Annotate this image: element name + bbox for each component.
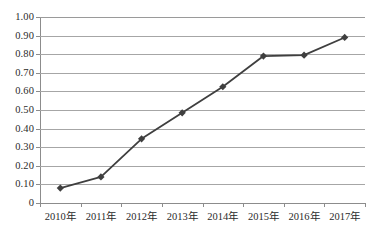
x-axis-tick-label: 2016年 — [289, 211, 320, 223]
x-axis-tick-mark — [81, 203, 82, 207]
y-axis-tick-label: 0.70 — [15, 68, 34, 78]
y-axis-tick-label: 0.10 — [15, 179, 34, 189]
y-axis-tick-label: 0.80 — [15, 49, 34, 59]
x-axis-tick-label: 2014年 — [207, 211, 238, 223]
plot-area — [40, 17, 365, 203]
y-axis-tick-label: 0.50 — [15, 105, 34, 115]
series-polyline — [60, 37, 344, 188]
x-axis-tick-mark — [162, 203, 163, 207]
x-axis-tick-mark — [324, 203, 325, 207]
y-axis-tick-label-group: 00.100.200.300.400.500.600.700.800.901.0… — [0, 0, 37, 230]
y-axis-tick-label: 0.90 — [15, 31, 34, 41]
data-point-marker — [57, 185, 64, 192]
y-axis-tick-label: 0 — [29, 198, 34, 208]
x-axis-tick-label-group: 2010年2011年2012年2013年2014年2015年2016年2017年 — [40, 208, 365, 228]
x-axis-tick-mark — [365, 203, 366, 207]
y-axis-tick-label: 0.60 — [15, 86, 34, 96]
data-series-line — [40, 17, 365, 203]
x-axis-tick-label: 2010年 — [45, 211, 76, 223]
y-axis-tick-label: 0.40 — [15, 124, 34, 134]
x-axis-tick-mark — [121, 203, 122, 207]
x-axis-tick-mark — [243, 203, 244, 207]
x-axis-tick-mark — [284, 203, 285, 207]
data-point-marker — [341, 34, 348, 41]
data-point-marker — [300, 52, 307, 59]
series-marker-group — [57, 34, 349, 192]
x-axis-tick-mark — [203, 203, 204, 207]
x-axis-tick-mark — [40, 203, 41, 207]
line-chart: 00.100.200.300.400.500.600.700.800.901.0… — [0, 0, 367, 230]
x-axis-tick-label: 2017年 — [329, 211, 360, 223]
x-axis-tick-label: 2015年 — [248, 211, 279, 223]
y-axis-tick-label: 1.00 — [15, 12, 34, 22]
x-axis-tick-label: 2011年 — [86, 211, 117, 223]
x-axis-tick-label: 2012年 — [126, 211, 157, 223]
y-axis-tick-label: 0.30 — [15, 142, 34, 152]
y-axis-tick-label: 0.20 — [15, 161, 34, 171]
x-axis-tick-label: 2013年 — [167, 211, 198, 223]
